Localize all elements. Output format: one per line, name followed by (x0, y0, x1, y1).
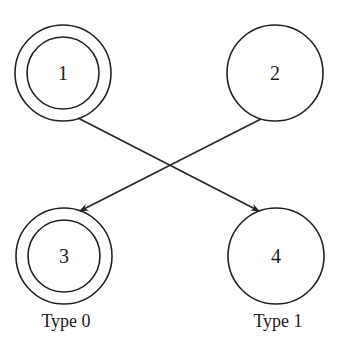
node-3[interactable]: 3 (16, 208, 112, 304)
node-4[interactable]: 4 (228, 208, 324, 304)
node-3-label: 3 (59, 245, 69, 267)
edge-1-to-4 (78, 118, 259, 211)
edges (78, 118, 261, 211)
node-1[interactable]: 1 (15, 25, 111, 121)
node-2-label: 2 (270, 62, 280, 84)
node-1-label: 1 (58, 62, 68, 84)
type-1-label: Type 1 (253, 311, 302, 331)
type-0-label: Type 0 (41, 311, 90, 331)
node-4-label: 4 (271, 245, 281, 267)
state-diagram: 1 2 3 4 Type 0 Type 1 (0, 0, 346, 352)
node-2[interactable]: 2 (227, 25, 323, 121)
